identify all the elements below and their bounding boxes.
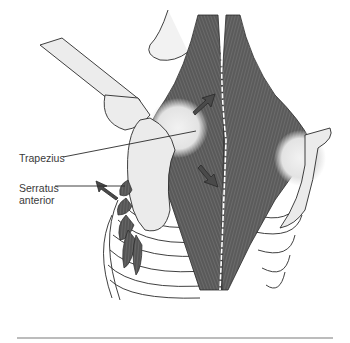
humerus (40, 38, 150, 130)
jaw (149, 10, 188, 60)
label-serratus-line2: anterior (19, 194, 59, 206)
anatomy-illustration (0, 0, 350, 343)
label-trapezius: Trapezius (19, 152, 65, 164)
label-serratus-anterior: Serratus anterior (19, 182, 59, 206)
label-serratus-line1: Serratus (19, 182, 59, 194)
scapula-left (128, 118, 176, 231)
